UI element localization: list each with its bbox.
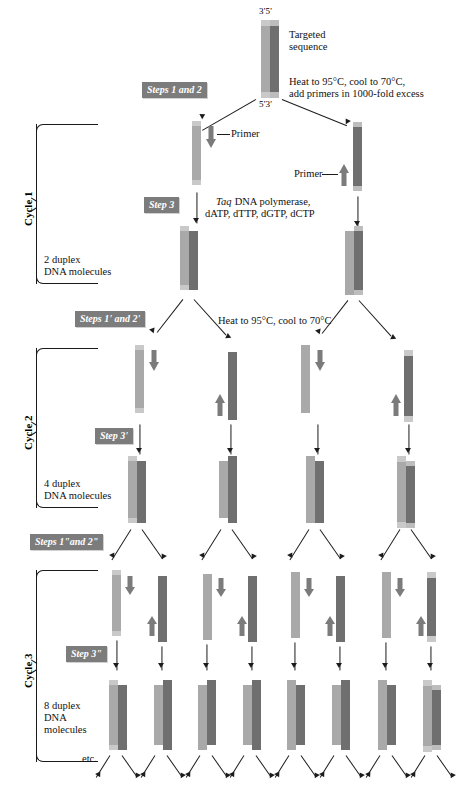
cycle-3-label: Cycle 3 [22,653,34,688]
cycle3-product-2-light [154,685,163,745]
cycle2-product-3-light [306,456,315,523]
cycle2-product-2-light [219,461,228,518]
chip-step-3[interactable]: Step 3 [144,197,179,213]
c2-extend-3-head [314,448,320,453]
targeted-sequence-label: Targeted sequence [289,29,327,53]
cycle3-product-4-dark [252,680,261,750]
primer-down-arrow-icon-c1 [205,126,217,148]
cycle2-product-1-dark [137,461,146,523]
cycle3-product-5-light [287,680,296,750]
primer-down-arrow-icon-c3-1 [124,576,135,596]
c3-extend-1-head [113,663,119,668]
primer-up-arrow-icon-c3-2 [146,616,157,636]
cycle3-product-7-light [378,680,387,750]
cycle2-product-1-light [128,456,137,523]
cycle1-template-strand-left [192,121,201,185]
cycle2-product-3-dark [315,461,324,523]
denature-note-2: Heat to 95°C, cool to 70°C [218,315,331,327]
cycle2-strand-4 [404,350,413,422]
taq-polymerase-note-italic: Taq [216,196,231,208]
cycle3-strand-8 [427,572,436,642]
primer-up-arrow-icon-c3-4 [236,616,247,636]
primer-up-arrow-icon-c2-2 [214,394,226,416]
primer-label-right: Primer [294,168,323,180]
split-arrow-right-line [282,99,347,126]
cycle2-strand-1 [135,345,144,413]
cycle2-product-4-dark [406,461,415,528]
cycle1-product-b-dark [354,226,363,295]
cycle2-product-2-dark [228,456,237,523]
chip-steps-1pp-and-2pp[interactable]: Steps 1"and 2" [30,534,103,550]
cycle3-product-6-light [332,685,341,745]
c2-extend-4-head [405,448,411,453]
cycle-1-label: Cycle 1 [22,191,34,226]
cycle3-strand-7 [382,572,391,638]
cycle3-strand-5 [291,572,300,638]
pcr-diagram: 3'5' 5'3' Targeted sequence Heat to 95°C… [0,0,474,790]
cycle1-product-b-light [345,231,354,295]
c2-extend-1-head [136,448,142,453]
primer-label-left: Primer [231,128,260,140]
chip-steps-1p-and-2p[interactable]: Steps 1' and 2' [75,311,145,327]
split-arrow-right-head [343,117,351,124]
cycle2-product-4-light [397,456,406,528]
primer-up-arrow-icon-c2-4 [390,394,402,416]
split2-a-left-line [157,299,184,333]
cycle3-product-4-light [243,685,252,745]
final-8-r-head [448,771,456,778]
cycle-1-product-label: 2 duplex DNA molecules [44,254,111,278]
split3-2-right-head [249,552,257,559]
chip-steps-1-and-2[interactable]: Steps 1 and 2 [142,82,207,98]
final-6-r-head [357,771,365,778]
primer-down-arrow-icon-c3-3 [215,578,226,598]
cycle3-strand-3 [203,574,212,640]
cycle3-product-6-dark [341,680,350,750]
cycle3-product-3-light [198,685,207,750]
cycle3-strand-6 [336,576,345,642]
c3-extend-3-head [203,663,209,668]
split2-a-right-head [225,333,231,339]
etc-label: etc. [82,753,97,765]
cycle3-product-2-dark [163,680,172,750]
chip-step-3pp[interactable]: Step 3" [66,646,107,662]
denature-primers-note: Heat to 95°C, cool to 70°C, add primers … [289,76,424,100]
taq-polymerase-note-line2: dATP, dTTP, dGTP, dCTP [205,208,315,220]
taq-polymerase-note-rest: DNA polymerase, [232,196,310,208]
cycle-3-product-label: 8 duplex DNA molecules [44,700,87,736]
cycle3-strand-1 [112,570,121,636]
cycle3-product-1-light [109,680,118,750]
split3-3-right-head [337,552,345,559]
primer-down-arrow-icon-c2-1 [148,350,160,372]
cycle-2-product-label: 4 duplex DNA molecules [44,478,111,502]
cycle1-template-strand-right [353,122,362,191]
cycle3-strand-2 [158,576,167,642]
split2-b-right-line [359,300,392,336]
split3-4-right-head [428,552,436,559]
cycle3-product-5-dark [296,685,305,745]
cycle1-product-a-dark [189,231,198,290]
c3-extend-7-head [382,663,388,668]
chip-step-3p[interactable]: Step 3' [95,428,133,444]
c3-extend-5-head [291,663,297,668]
cycle3-product-7-dark [387,685,396,745]
cycle3-product-8-light [423,680,432,752]
cycle2-strand-3 [301,345,310,413]
primer-down-arrow-icon-c3-5 [303,578,314,598]
c3-extend-2-head [158,663,164,668]
cycle-2-label: Cycle 2 [22,415,34,450]
primer-up-arrow-icon-c1 [338,164,350,186]
end-label-bottom: 5'3' [259,99,272,109]
cycle2-strand-2 [228,352,237,420]
cycle3-product-8-dark [432,685,441,750]
c3-extend-8-head [427,663,433,668]
end-label-top: 3'5' [259,6,272,16]
c3-extend-4-head [248,663,254,668]
primer-leader-left [217,134,230,135]
c2-extend-2-head [227,448,233,453]
split3-1-right-head [159,552,167,559]
primer-leader-right [322,174,338,175]
cycle1-product-a-light [180,226,189,290]
c3-extend-6-head [336,663,342,668]
cycle3-strand-4 [248,576,257,642]
dna-duplex-original-dark [270,20,279,98]
